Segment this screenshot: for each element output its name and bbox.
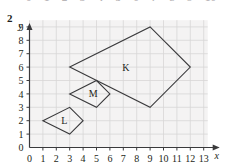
x-axis-tick-label: 0: [27, 153, 32, 164]
x-axis-tick-label: 7: [121, 153, 126, 164]
y-axis-tick-label: 3: [19, 102, 24, 113]
y-axis-tick-label: 2: [19, 115, 24, 126]
x-axis-tick-label: 3: [67, 153, 72, 164]
y-axis-tick-label: 1: [19, 129, 24, 140]
x-axis-tick-label: 6: [107, 153, 112, 164]
figure-container: 012345678910 2 0123456789101112131234567…: [0, 0, 225, 168]
coordinate-grid-plot: 0123456789101112131234567890 xy KML: [0, 0, 225, 168]
shape-label-l: L: [61, 115, 67, 126]
y-axis-tick-label: 7: [19, 48, 24, 59]
y-axis-tick-label: 5: [19, 75, 24, 86]
origin-tick-label: 0: [19, 142, 24, 153]
x-axis-tick-label: 9: [148, 153, 153, 164]
x-axis-tick-label: 2: [54, 153, 59, 164]
x-axis-tick-label: 10: [159, 153, 169, 164]
x-axis-tick-label: 8: [134, 153, 139, 164]
x-axis-tick-label: 11: [172, 153, 182, 164]
shape-label-m: M: [89, 88, 98, 99]
x-axis-tick-label: 13: [199, 153, 209, 164]
y-axis-label: y: [17, 20, 23, 31]
shape-label-k: K: [122, 62, 130, 73]
x-axis-label: x: [213, 150, 219, 161]
y-axis-tick-label: 6: [19, 62, 24, 73]
y-axis-tick-label: 8: [19, 35, 24, 46]
x-axis-tick-label: 4: [81, 153, 86, 164]
x-axis-tick-label: 5: [94, 153, 99, 164]
y-axis-tick-label: 4: [19, 89, 24, 100]
x-axis-tick-label: 1: [40, 153, 45, 164]
x-axis-tick-label: 12: [185, 153, 195, 164]
